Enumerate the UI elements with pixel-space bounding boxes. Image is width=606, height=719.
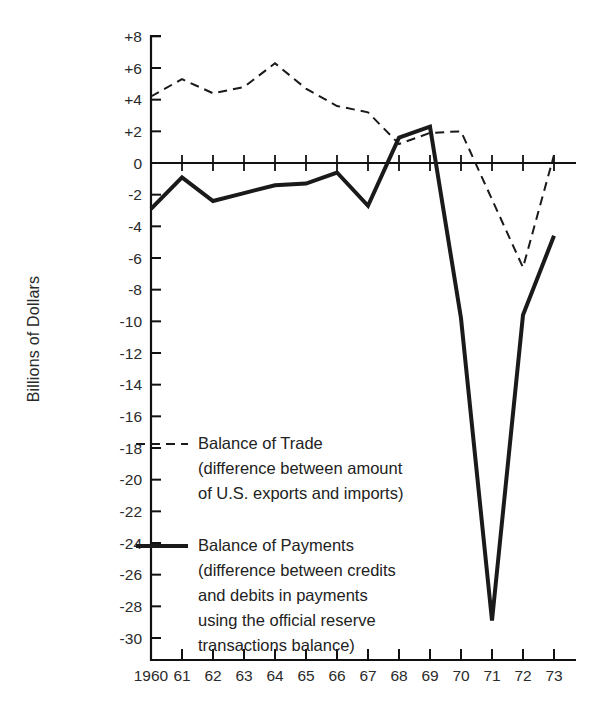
y-axis-title: Billions of Dollars — [25, 209, 43, 469]
y-axis-tick: -20 — [120, 471, 161, 488]
x-tick-label: 68 — [390, 667, 407, 684]
x-axis-tick: 69 — [421, 649, 438, 684]
legend-entry-title: Balance of Trade — [198, 434, 323, 452]
y-axis-tick: -22 — [120, 503, 161, 520]
legend-entry-1: Balance of Trade(difference between amou… — [136, 434, 403, 502]
y-tick-label: +6 — [124, 60, 142, 77]
x-tick-label: 64 — [266, 667, 284, 684]
x-axis-tick: 61 — [173, 649, 190, 684]
y-tick-label: -16 — [120, 408, 142, 425]
y-axis-tick: -12 — [120, 345, 161, 362]
y-axis-tick: -30 — [120, 630, 161, 647]
y-axis-title-container: Billions of Dollars — [0, 0, 56, 719]
x-tick-label: 71 — [483, 667, 500, 684]
x-axis-tick: 71 — [483, 649, 500, 684]
y-axis: +8+6+4+20-2-4-6-8-10-12-14-16-18-20-22-2… — [120, 28, 161, 660]
y-tick-label: -22 — [120, 503, 142, 520]
y-tick-label: -8 — [128, 281, 142, 298]
y-axis-tick: -4 — [128, 218, 161, 235]
legend-entry-description-line: and debits in payments — [198, 586, 368, 604]
x-axis-tick: 62 — [204, 649, 221, 684]
y-tick-label: -26 — [120, 566, 142, 583]
y-axis-tick: -2 — [128, 186, 161, 203]
chart-legend: Balance of Trade(difference between amou… — [136, 434, 403, 654]
y-axis-tick: -16 — [120, 408, 161, 425]
x-axis-tick: 66 — [328, 649, 345, 684]
x-axis-tick: 64 — [266, 649, 284, 684]
y-tick-label: -2 — [128, 186, 142, 203]
y-axis-tick: -18 — [120, 440, 161, 457]
x-axis-tick: 65 — [297, 649, 314, 684]
y-tick-label: +8 — [124, 28, 142, 45]
series-line-1 — [151, 63, 554, 267]
x-tick-label: 66 — [328, 667, 345, 684]
x-axis-tick: 63 — [235, 649, 252, 684]
chart-figure: Billions of Dollars +8+6+4+20-2-4-6-8-10… — [0, 0, 606, 719]
x-tick-label: 61 — [173, 667, 190, 684]
x-axis-tick: 67 — [359, 649, 376, 684]
x-tick-label: 1960 — [134, 667, 169, 684]
x-tick-label: 73 — [545, 667, 562, 684]
y-axis-tick: -28 — [120, 598, 161, 615]
y-tick-label: +2 — [124, 123, 142, 140]
y-axis-tick: +6 — [124, 60, 161, 77]
y-axis-tick: -14 — [120, 376, 161, 393]
y-tick-label: -4 — [128, 218, 142, 235]
y-tick-label: -18 — [120, 440, 142, 457]
y-axis-tick: -26 — [120, 566, 161, 583]
y-axis-tick: -24 — [120, 535, 161, 552]
x-tick-label: 70 — [452, 667, 470, 684]
x-tick-label: 63 — [235, 667, 252, 684]
y-tick-label: +4 — [124, 91, 142, 108]
y-axis-tick: -6 — [128, 250, 161, 267]
y-axis-tick: +2 — [124, 123, 161, 140]
y-tick-label: -20 — [120, 471, 143, 488]
y-tick-label: -30 — [120, 630, 143, 647]
y-axis-tick: -8 — [128, 281, 161, 298]
legend-entry-description-line: transactions balance) — [198, 636, 355, 654]
legend-entry-description-line: using the official reserve — [198, 611, 376, 629]
legend-entry-title: Balance of Payments — [198, 536, 354, 554]
legend-entry-description-line: (difference between amount — [198, 459, 403, 477]
chart-plot-area: +8+6+4+20-2-4-6-8-10-12-14-16-18-20-22-2… — [0, 0, 606, 719]
y-tick-label: -24 — [120, 535, 143, 552]
y-axis-tick: -10 — [120, 313, 161, 330]
legend-entry-description-line: of U.S. exports and imports) — [198, 484, 403, 502]
legend-entry-2: Balance of Payments(difference between c… — [136, 536, 396, 654]
x-axis-tick: 72 — [514, 649, 531, 684]
x-axis: 196061626364656667686970717273 — [134, 649, 576, 684]
x-axis-tick: 73 — [545, 649, 562, 684]
x-tick-label: 65 — [297, 667, 314, 684]
y-tick-label: -14 — [120, 376, 143, 393]
y-tick-label: 0 — [133, 155, 142, 172]
y-tick-label: -28 — [120, 598, 142, 615]
x-tick-label: 62 — [204, 667, 221, 684]
x-tick-label: 72 — [514, 667, 531, 684]
x-axis-tick: 68 — [390, 649, 407, 684]
zero-baseline — [151, 155, 576, 171]
x-axis-tick: 70 — [452, 649, 470, 684]
y-tick-label: -10 — [120, 313, 143, 330]
y-tick-label: -12 — [120, 345, 142, 362]
x-tick-label: 69 — [421, 667, 438, 684]
x-axis-tick: 1960 — [134, 649, 169, 684]
y-tick-label: -6 — [128, 250, 142, 267]
legend-entry-description-line: (difference between credits — [198, 561, 396, 579]
x-tick-label: 67 — [359, 667, 376, 684]
y-axis-tick: +8 — [124, 28, 161, 45]
